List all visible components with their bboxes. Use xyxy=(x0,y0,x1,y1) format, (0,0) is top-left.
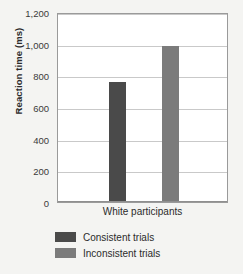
gridline-800 xyxy=(58,77,227,78)
gridline-1000 xyxy=(58,46,227,47)
legend-swatch-icon xyxy=(55,232,76,242)
y-axis-tick-800: 800 xyxy=(0,71,49,82)
bar-inconsistent-trials xyxy=(162,46,179,201)
y-axis-tick-1200: 1,200 xyxy=(0,8,49,19)
legend-item: Consistent trials xyxy=(55,229,160,245)
bar-consistent-trials xyxy=(109,82,126,201)
bar-chart-figure: Reaction time (ms) 02004006008001,0001,2… xyxy=(0,0,243,274)
legend-swatch-icon xyxy=(55,248,76,258)
legend-item: Inconsistent trials xyxy=(55,245,160,261)
y-axis-tick-400: 400 xyxy=(0,134,49,145)
gridline-600 xyxy=(58,109,227,110)
y-axis-tick-600: 600 xyxy=(0,103,49,114)
x-axis-line xyxy=(58,201,227,202)
legend-label: Consistent trials xyxy=(83,232,154,243)
y-axis-tick-1000: 1,000 xyxy=(0,39,49,50)
y-axis-tick-0: 0 xyxy=(0,198,49,209)
plot-area xyxy=(57,13,228,203)
gridline-200 xyxy=(58,172,227,173)
legend-label: Inconsistent trials xyxy=(83,248,160,259)
y-axis-tick-200: 200 xyxy=(0,166,49,177)
gridline-1200 xyxy=(58,14,227,15)
gridline-400 xyxy=(58,141,227,142)
x-axis-category-label: White participants xyxy=(57,206,228,217)
chart-legend: Consistent trialsInconsistent trials xyxy=(55,229,160,261)
y-axis-tick-labels: 02004006008001,0001,200 xyxy=(0,13,53,203)
